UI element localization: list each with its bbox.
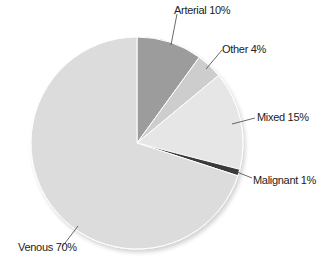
slice-label-arterial: Arterial 10%	[174, 4, 230, 16]
leader-line	[237, 172, 252, 178]
pie-chart	[0, 0, 327, 275]
slice-label-other: Other 4%	[222, 43, 266, 55]
slice-label-malignant: Malignant 1%	[253, 174, 316, 186]
slice-label-venous: Venous 70%	[18, 241, 77, 253]
leader-line	[206, 50, 222, 69]
slice-label-mixed: Mixed 15%	[257, 111, 309, 123]
leader-line	[171, 14, 177, 45]
